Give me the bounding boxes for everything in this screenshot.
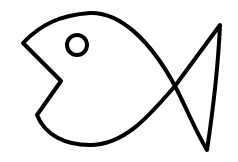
fish-drawing <box>0 0 238 162</box>
fish-eye <box>67 35 87 55</box>
fish-tail-outline <box>175 25 220 150</box>
fish-body-outline <box>23 13 175 145</box>
